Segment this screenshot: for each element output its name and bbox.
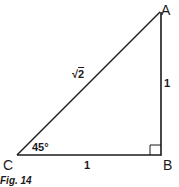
right-triangle-diagram: A C B √2 1 1 45° Fig. 14 <box>0 0 179 187</box>
angle-c-label: 45° <box>32 142 49 153</box>
hypotenuse-length-label: √2 <box>72 69 84 80</box>
vertex-label-a: A <box>161 3 170 17</box>
right-angle-marker-icon <box>150 145 161 155</box>
vertex-label-b: B <box>163 158 172 172</box>
vertex-label-c: C <box>3 158 13 172</box>
figure-caption: Fig. 14 <box>0 176 32 186</box>
side-ab-length-label: 1 <box>164 78 170 89</box>
sqrt-radicand: 2 <box>78 68 84 80</box>
hypotenuse-ca-line <box>17 12 160 155</box>
side-cb-length-label: 1 <box>84 160 90 171</box>
